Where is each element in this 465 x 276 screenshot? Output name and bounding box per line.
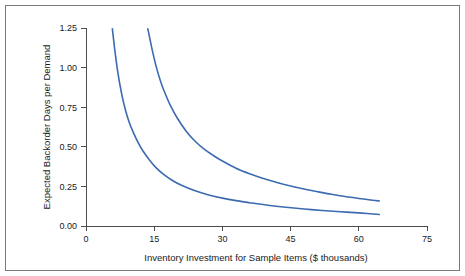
series-line-lower-curve [112,29,379,215]
y-tick-label: 1.00 [59,63,77,73]
x-tick-label: 15 [149,234,159,244]
chart-figure: 01530456075 0.000.250.500.751.001.25 Inv… [0,0,465,276]
y-axis-title: Expected Backorder Days per Demand [41,45,52,210]
y-tick-label: 1.25 [59,23,77,33]
x-tick-label: 0 [83,234,88,244]
x-axis-title: Inventory Investment for Sample Items ($… [144,252,367,263]
y-axis-ticks: 0.000.250.500.751.001.25 [59,23,86,231]
axes-group [86,28,427,226]
y-tick-label: 0.00 [59,221,77,231]
series-line-upper-curve [148,29,379,201]
x-axis-ticks: 01530456075 [83,226,432,244]
y-tick-label: 0.75 [59,103,77,113]
y-tick-label: 0.50 [59,142,77,152]
x-tick-label: 75 [422,234,432,244]
chart-plot-area: 01530456075 0.000.250.500.751.001.25 Inv… [0,0,465,276]
x-tick-label: 30 [217,234,227,244]
y-tick-label: 0.25 [59,182,77,192]
data-series-group [112,29,379,215]
x-tick-label: 45 [286,234,296,244]
x-tick-label: 60 [354,234,364,244]
